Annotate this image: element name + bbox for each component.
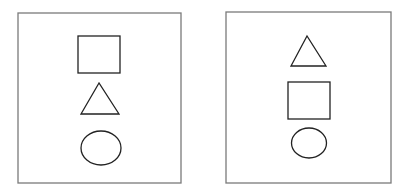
panel-frame — [18, 13, 181, 183]
panel-right — [226, 12, 391, 183]
shapes-diagram — [0, 0, 409, 188]
panel-left — [18, 13, 181, 183]
